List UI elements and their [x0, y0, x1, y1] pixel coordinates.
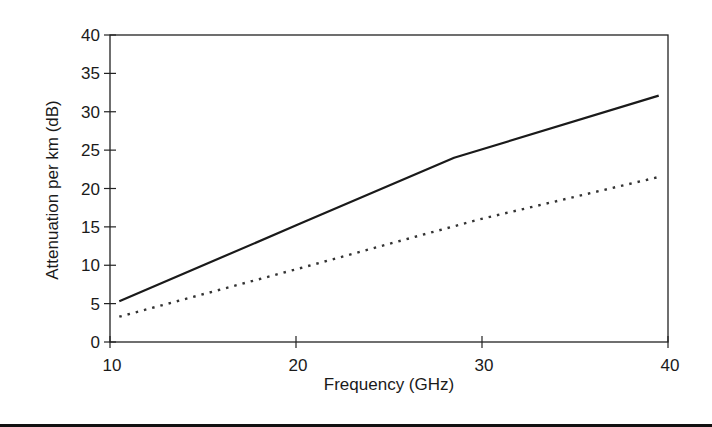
x-tick-label: 30	[475, 356, 494, 375]
y-tick-label: 40	[81, 26, 100, 45]
line-chart: 0510152025303540 10203040 Frequency (GHz…	[0, 0, 712, 427]
y-tick-label: 15	[81, 218, 100, 237]
y-tick-label: 25	[81, 141, 100, 160]
y-tick-label: 35	[81, 64, 100, 83]
x-tick-label: 20	[289, 356, 308, 375]
x-axis-title: Frequency (GHz)	[324, 375, 454, 394]
x-tick-label: 10	[103, 356, 122, 375]
data-series	[119, 96, 658, 317]
x-tick-label: 40	[661, 356, 680, 375]
y-tick-label: 20	[81, 180, 100, 199]
y-axis-ticks: 0510152025303540	[81, 26, 116, 352]
y-tick-label: 5	[91, 295, 100, 314]
y-tick-label: 0	[91, 333, 100, 352]
y-tick-label: 10	[81, 256, 100, 275]
series-solid-line	[119, 96, 658, 302]
y-axis-title: Attenuation per km (dB)	[43, 100, 62, 280]
series-dotted-line	[119, 177, 658, 317]
y-tick-label: 30	[81, 103, 100, 122]
